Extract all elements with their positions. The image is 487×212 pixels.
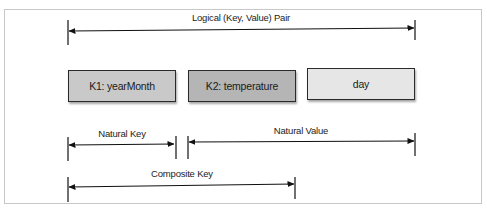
composite-key-label: Composite Key [151, 168, 213, 179]
value-label: day [353, 78, 369, 90]
key2-label: K2: temperature [206, 80, 278, 92]
key1-box: K1: yearMonth [68, 70, 176, 102]
natural-key-label: Natural Key [98, 128, 145, 139]
logical-pair-label: Logical (Key, Value) Pair [192, 12, 290, 23]
value-box: day [307, 68, 415, 100]
natural-value-label: Natural Value [274, 125, 328, 136]
key1-label: K1: yearMonth [89, 80, 155, 92]
span-arrows [0, 0, 487, 212]
key2-box: K2: temperature [188, 70, 296, 102]
